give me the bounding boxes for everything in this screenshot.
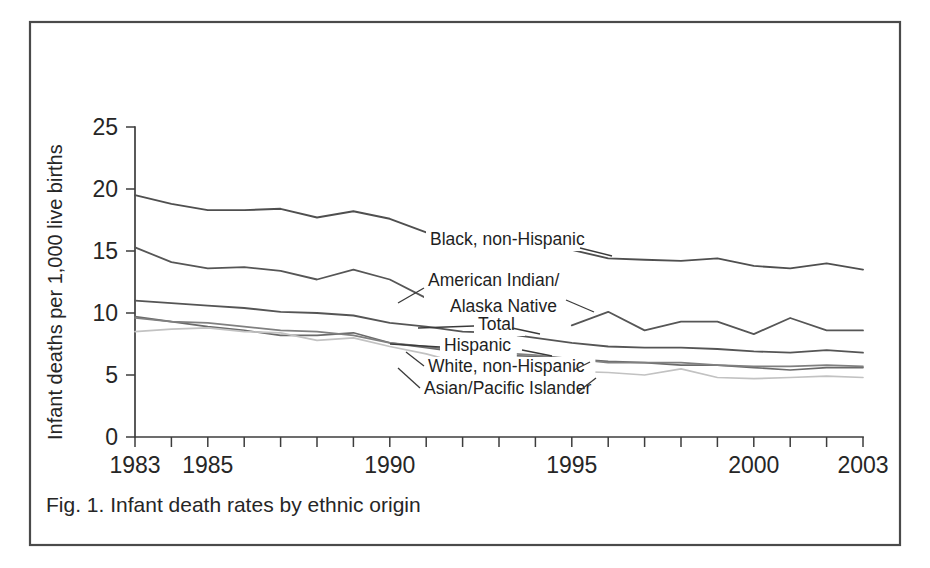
x-tick-label: 1985: [182, 452, 233, 478]
y-tick-label: 5: [105, 362, 118, 388]
x-tick-label: 2000: [728, 452, 779, 478]
infant-death-rate-line-chart: Infant deaths per 1,000 live births 0510…: [0, 0, 930, 568]
series-annotation-label: American Indian/: [428, 270, 559, 290]
y-tick-label: 0: [105, 424, 118, 450]
y-tick-label: 10: [92, 300, 118, 326]
figure-caption: Fig. 1. Infant death rates by ethnic ori…: [46, 493, 421, 516]
series-annotation-label: Hispanic: [444, 335, 511, 355]
y-tick-label: 20: [92, 176, 118, 202]
figure-container: Infant deaths per 1,000 live births 0510…: [0, 0, 930, 568]
series-annotation-label: Black, non-Hispanic: [430, 229, 585, 249]
x-tick-label: 2003: [837, 452, 888, 478]
series-annotation-label: Asian/Pacific Islander: [424, 378, 591, 398]
y-axis-title: Infant deaths per 1,000 live births: [44, 144, 66, 440]
series-annotation-label: Alaska Native: [450, 296, 557, 316]
series-annotation-label: White, non-Hispanic: [428, 356, 585, 376]
x-tick-label: 1983: [109, 452, 160, 478]
y-tick-label: 15: [92, 238, 118, 264]
y-tick-label: 25: [92, 114, 118, 140]
x-tick-label: 1995: [546, 452, 597, 478]
x-tick-label: 1990: [364, 452, 415, 478]
svg-text:Infant deaths per 1,000 live b: Infant deaths per 1,000 live births: [44, 144, 66, 440]
series-annotation-label: Total: [478, 314, 515, 334]
